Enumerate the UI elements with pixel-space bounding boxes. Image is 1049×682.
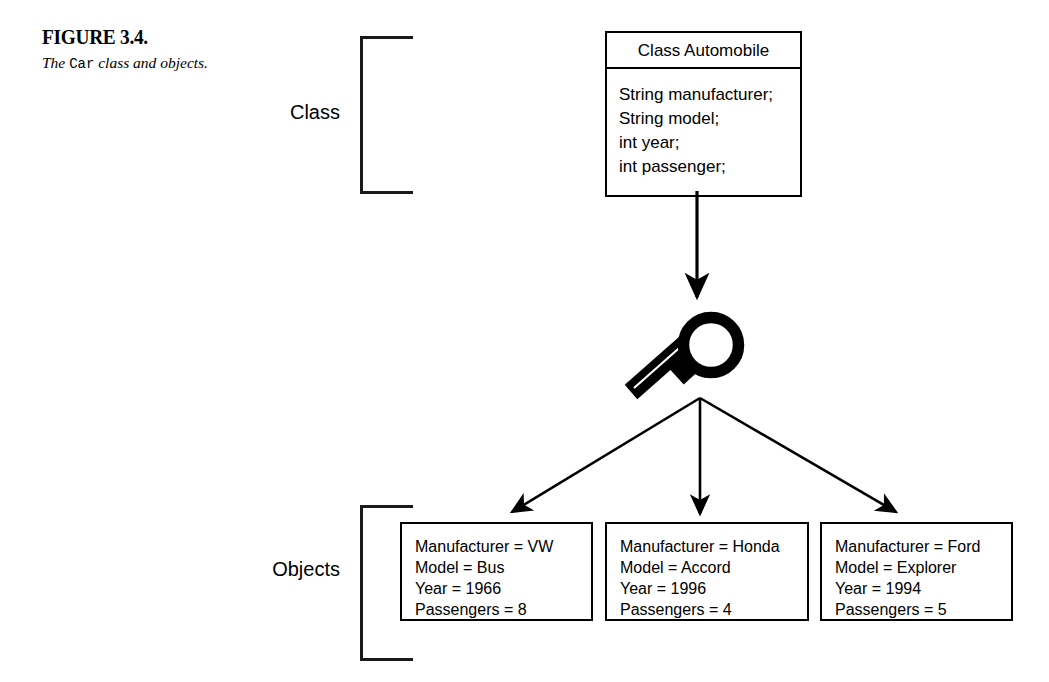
object-box: Manufacturer = Ford Model = Explorer Yea… [820,522,1013,621]
class-group-bracket [360,36,413,194]
object-attribute: Manufacturer = Ford [835,536,1011,557]
class-field: String model; [619,107,800,131]
caption-prefix: The [42,54,69,71]
class-box-title: Class Automobile [607,33,800,69]
object-attribute: Passengers = 4 [620,599,807,620]
class-field: int year; [619,131,800,155]
figure-caption-text: The Car class and objects. [42,54,302,73]
class-section-label: Class [170,101,340,124]
objects-section-label: Objects [160,558,340,581]
object-attribute: Passengers = 5 [835,599,1011,620]
object-attribute: Year = 1994 [835,578,1011,599]
object-attribute: Passengers = 8 [415,599,591,620]
class-field: String manufacturer; [619,83,800,107]
object-attribute: Year = 1966 [415,578,591,599]
figure-caption-block: FIGURE 3.4. The Car class and objects. [42,26,302,73]
figure-number: FIGURE 3.4. [42,26,281,48]
object-box: Manufacturer = VW Model = Bus Year = 196… [400,522,593,621]
class-box-fields: String manufacturer; String model; int y… [607,69,800,195]
class-box: Class Automobile String manufacturer; St… [605,31,802,197]
object-attribute: Manufacturer = Honda [620,536,807,557]
object-box: Manufacturer = Honda Model = Accord Year… [605,522,809,621]
caption-class-name: Car [69,56,94,72]
arrow-to-object-3 [700,398,896,512]
arrow-to-object-1 [512,398,700,512]
figure-canvas: FIGURE 3.4. The Car class and objects. C… [0,0,1049,682]
caption-suffix: class and objects. [94,54,208,71]
magnifying-glass-icon [631,318,739,393]
object-attribute: Manufacturer = VW [415,536,591,557]
object-attribute: Model = Explorer [835,557,1011,578]
object-attribute: Year = 1996 [620,578,807,599]
object-attribute: Model = Accord [620,557,807,578]
object-attribute: Model = Bus [415,557,591,578]
class-field: int passenger; [619,155,800,179]
